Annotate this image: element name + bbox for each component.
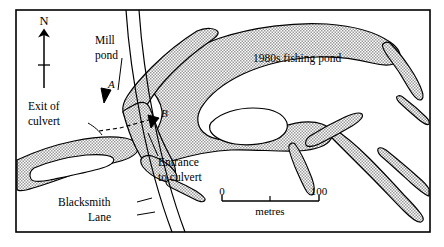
map-figure: N A B Mill pond Exit of cu xyxy=(0,0,444,247)
scale-bar-units-label: metres xyxy=(255,205,284,217)
point-marker-a-label: A xyxy=(107,78,115,90)
east-edge-channel xyxy=(397,96,430,125)
map-canvas: N A B Mill pond Exit of cu xyxy=(0,0,444,247)
point-marker-a: A xyxy=(101,78,115,103)
point-marker-b-label: B xyxy=(161,107,168,119)
fishing-pond-label: 1980s fishing pond xyxy=(253,52,341,65)
scale-bar-max-label: 100 xyxy=(311,185,328,197)
scale-bar-min-label: 0 xyxy=(219,185,225,197)
entrance-to-culvert-label-line2: to culvert xyxy=(158,171,203,183)
north-arrow: N xyxy=(38,14,50,88)
exit-of-culvert-label-line1: Exit of xyxy=(28,100,60,112)
northeast-outlet-water xyxy=(382,42,423,100)
mill-pond-label-line1: Mill xyxy=(95,34,115,46)
entrance-to-culvert-label-line1: Entrance xyxy=(158,156,199,168)
mill-pond-label-line2: pond xyxy=(95,49,118,62)
exit-of-culvert-label-line2: culvert xyxy=(28,115,61,127)
pond-island xyxy=(210,108,288,145)
scale-bar: 0 100 metres xyxy=(219,185,328,217)
blacksmith-lane-label-line1: Blacksmith xyxy=(58,196,111,208)
blacksmith-lane-label-line2: Lane xyxy=(88,211,111,223)
north-arrow-label: N xyxy=(39,14,48,28)
